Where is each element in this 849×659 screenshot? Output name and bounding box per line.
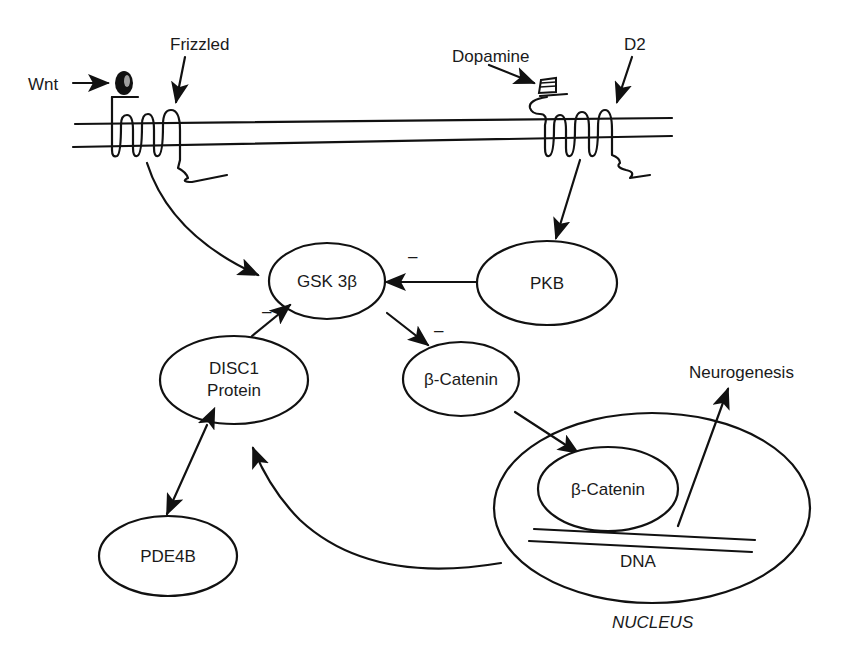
pkb-node[interactable]: PKB	[477, 241, 617, 325]
beta-catenin-nucleus-node[interactable]: β-Catenin	[538, 447, 678, 531]
disc1-protein-node[interactable]: DISC1 Protein	[160, 336, 308, 424]
nucleus-label: NUCLEUS	[612, 613, 694, 632]
pde4b-node[interactable]: PDE4B	[99, 516, 237, 596]
wnt-label: Wnt	[28, 75, 59, 94]
beta-catenin-cytoplasm-node[interactable]: β-Catenin	[403, 342, 519, 416]
pkb-label: PKB	[530, 274, 564, 293]
disc1-label-line1: DISC1	[209, 359, 259, 378]
gsk3b-label: GSK 3β	[297, 272, 357, 291]
neurogenesis-label: Neurogenesis	[689, 363, 794, 382]
wnt-ligand-icon	[115, 71, 133, 95]
beta-catenin-nucleus-label: β-Catenin	[571, 480, 645, 499]
disc1-label-line2: Protein	[207, 381, 261, 400]
gsk-to-catenin-arrow	[387, 313, 428, 345]
inhibit-mark-disc1-gsk: –	[262, 302, 272, 321]
dopamine-label: Dopamine	[452, 47, 530, 66]
inhibit-mark-pkb-gsk: –	[408, 247, 418, 266]
frizzled-arrow	[176, 57, 185, 102]
signaling-pathway-diagram: Wnt Frizzled Dopamine D2 GSK 3β PKB – – …	[0, 0, 849, 659]
dna-label: DNA	[620, 552, 657, 571]
inhibit-mark-gsk-catenin: –	[434, 321, 444, 340]
beta-catenin-cytoplasm-label: β-Catenin	[424, 370, 498, 389]
disc1-pde4b-bidirectional-arrow	[167, 425, 207, 514]
d2-to-pkb-arrow	[556, 160, 580, 238]
frizzled-receptor	[112, 97, 227, 182]
d2-label: D2	[624, 35, 646, 54]
frizzled-label: Frizzled	[170, 35, 230, 54]
d2-arrow	[617, 57, 632, 102]
nucleus-to-disc1-arrow	[253, 448, 501, 569]
dopamine-ligand-icon	[539, 78, 556, 93]
pde4b-label: PDE4B	[140, 547, 196, 566]
dopamine-arrow	[489, 65, 534, 83]
